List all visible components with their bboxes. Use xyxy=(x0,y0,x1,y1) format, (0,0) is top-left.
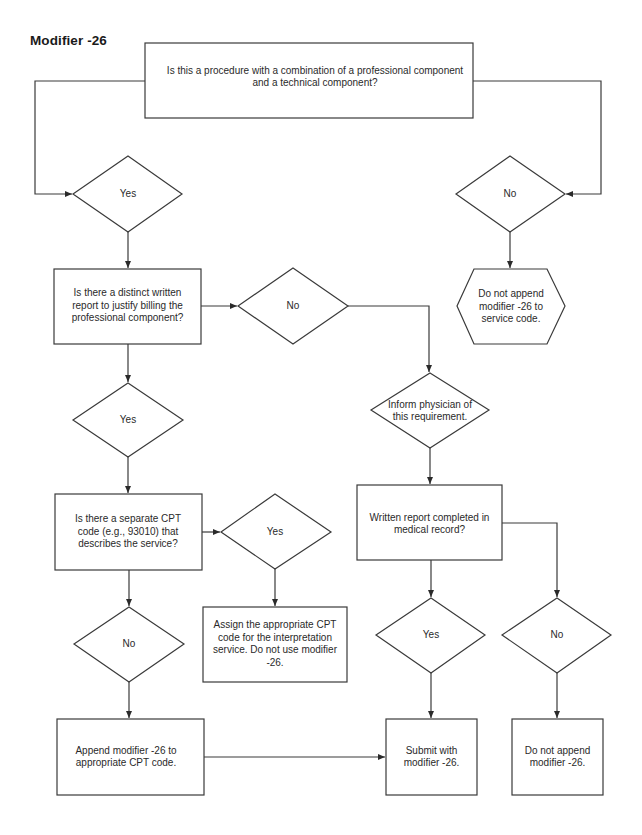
flowchart-canvas xyxy=(0,0,642,835)
yes-2-label: Yes xyxy=(98,412,158,428)
assign-cpt-label: Assign the appropriate CPT code for the … xyxy=(210,618,340,670)
do-not-append-label: Do not append modifier -26. xyxy=(515,743,600,771)
no-4-label: No xyxy=(99,636,159,652)
submit-modifier-label: Submit with modifier -26. xyxy=(392,743,471,771)
do-not-append-service-label: Do not append modifier -26 to service co… xyxy=(475,287,547,327)
no-2-label: No xyxy=(263,298,323,314)
no-1-label: No xyxy=(480,186,540,202)
q-written-report-label: Is there a distinct written report to ju… xyxy=(62,286,193,326)
edge-no2-inform xyxy=(348,306,429,372)
edge-completed-no3 xyxy=(502,523,557,597)
append-modifier-label: Append modifier -26 to appropriate CPT c… xyxy=(66,743,186,771)
yes-1-label: Yes xyxy=(98,186,158,202)
yes-4-label: Yes xyxy=(401,627,461,643)
q-combination-label: Is this a procedure with a combination o… xyxy=(160,62,470,92)
q-report-completed-label: Written report completed in medical reco… xyxy=(362,510,497,538)
inform-physician-label: Inform physician of this requirement. xyxy=(388,397,472,425)
yes-3-label: Yes xyxy=(245,524,305,540)
no-3-label: No xyxy=(527,627,587,643)
q-separate-cpt-label: Is there a separate CPT code (e.g., 9301… xyxy=(70,506,186,558)
